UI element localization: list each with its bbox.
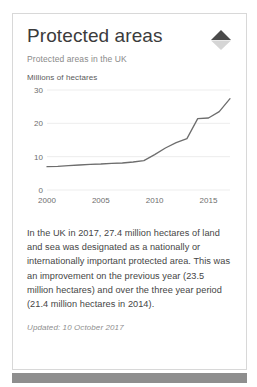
chart-x-tick-label: 2000 bbox=[38, 196, 56, 205]
protected-areas-card: Protected areas Protected areas in the U… bbox=[12, 13, 247, 370]
chart-y-axis-title: Millions of hectares bbox=[27, 73, 236, 82]
chart-y-tick-label: 10 bbox=[34, 153, 43, 162]
chart-canvas: 01020302000200520102015 bbox=[25, 84, 236, 214]
line-chart: 01020302000200520102015 bbox=[25, 84, 236, 214]
chart-y-tick-label: 30 bbox=[34, 86, 43, 95]
up-triangle-indicator-icon bbox=[208, 27, 234, 53]
chart-block: Millions of hectares 0102030200020052010… bbox=[13, 64, 246, 214]
card-body: In the UK in 2017, 27.4 million hectares… bbox=[13, 214, 246, 333]
page-title: Protected areas bbox=[27, 26, 232, 47]
bottom-bar bbox=[12, 373, 247, 383]
chart-x-tick-label: 2010 bbox=[146, 196, 164, 205]
chart-y-tick-label: 20 bbox=[34, 119, 43, 128]
chart-x-tick-label: 2015 bbox=[200, 196, 218, 205]
chart-x-tick-label: 2005 bbox=[92, 196, 110, 205]
chart-y-tick-label: 0 bbox=[39, 186, 44, 195]
card-header: Protected areas Protected areas in the U… bbox=[13, 14, 246, 64]
description-paragraph: In the UK in 2017, 27.4 million hectares… bbox=[27, 226, 232, 312]
card-subtitle: Protected areas in the UK bbox=[27, 54, 232, 64]
updated-timestamp: Updated: 10 October 2017 bbox=[27, 323, 232, 332]
